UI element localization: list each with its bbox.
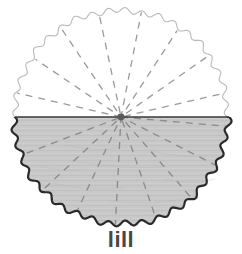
figure-root: lill <box>0 0 242 254</box>
scalloped-circle-diagram <box>0 0 242 254</box>
figure-caption: lill <box>0 228 242 252</box>
center-hub <box>118 114 125 121</box>
